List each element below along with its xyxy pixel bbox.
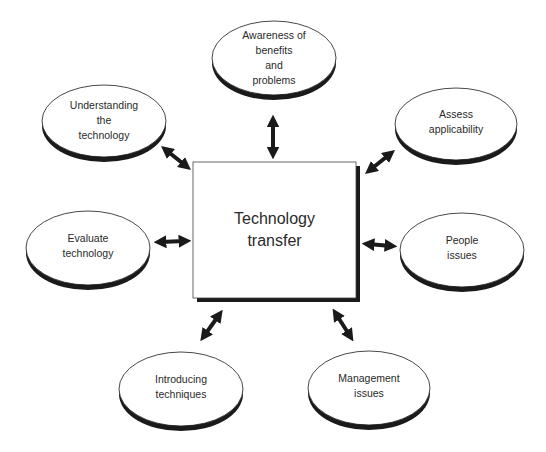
- node-evaluate-line-2: technology: [63, 246, 114, 261]
- node-introducing-label: Introducing techniques: [119, 361, 243, 413]
- node-introducing-line-2: techniques: [156, 387, 207, 402]
- node-awareness-label: Awareness of benefits and problems: [212, 22, 336, 94]
- arrow-people: [368, 244, 391, 246]
- node-evaluate-line-1: Evaluate: [68, 231, 109, 246]
- node-awareness-line-1: Awareness of: [242, 28, 305, 43]
- node-assess-line-2: applicability: [429, 122, 483, 137]
- node-awareness-line-2: benefits: [256, 43, 293, 58]
- node-understanding-line-3: technology: [79, 128, 130, 143]
- center-label: Technology transfer: [193, 162, 356, 298]
- node-awareness-line-4: problems: [252, 73, 295, 88]
- center-line-2: transfer: [247, 230, 301, 252]
- node-people-line-1: People: [446, 233, 479, 248]
- node-understanding-label: Understanding the technology: [42, 88, 166, 152]
- node-management-line-2: issues: [354, 386, 384, 401]
- arrow-understanding: [166, 150, 186, 166]
- arrow-introducing: [204, 315, 219, 336]
- node-assess-line-1: Assess: [439, 107, 473, 122]
- node-management-line-1: Management: [338, 371, 399, 386]
- node-management-label: Management issues: [308, 360, 430, 412]
- node-understanding-line-1: Understanding: [70, 98, 138, 113]
- node-people-label: People issues: [400, 222, 524, 274]
- node-understanding-line-2: the: [97, 113, 112, 128]
- node-introducing-line-1: Introducing: [155, 372, 207, 387]
- node-people-line-2: issues: [447, 248, 477, 263]
- arrow-assess: [370, 154, 390, 170]
- node-assess-label: Assess applicability: [395, 96, 517, 148]
- node-awareness-line-3: and: [265, 58, 283, 73]
- arrow-evaluate: [160, 241, 185, 242]
- center-line-1: Technology: [234, 208, 315, 230]
- node-evaluate-label: Evaluate technology: [26, 220, 150, 272]
- arrow-management: [336, 314, 350, 336]
